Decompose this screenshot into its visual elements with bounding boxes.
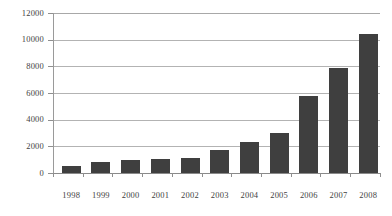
bar-2000 <box>121 160 140 173</box>
bar-2002 <box>181 158 200 173</box>
y-axis-label-8000: 8000 <box>26 62 44 71</box>
bar-2001 <box>151 159 170 173</box>
y-axis-label-2000: 2000 <box>26 142 44 151</box>
bar-2005 <box>270 133 289 173</box>
x-tick-3 <box>142 173 143 177</box>
x-axis-label-2006: 2006 <box>300 190 318 200</box>
x-axis-label-2004: 2004 <box>240 190 258 200</box>
x-tick-8 <box>291 173 292 177</box>
bar-2007 <box>329 68 348 173</box>
x-tick-0 <box>53 173 54 177</box>
bar-1998 <box>62 166 81 173</box>
y-axis-label-0: 0 <box>40 169 44 178</box>
x-axis-label-2007: 2007 <box>330 190 348 200</box>
bar-chart: 12000 10000 8000 6000 4000 2000 0 1998 1… <box>0 0 392 216</box>
x-axis-label-2000: 2000 <box>122 190 140 200</box>
bar-2008 <box>359 34 378 173</box>
x-tick-5 <box>202 173 203 177</box>
bar-2004 <box>240 142 259 173</box>
x-tick-1 <box>83 173 84 177</box>
x-axis-label-2008: 2008 <box>359 190 377 200</box>
x-tick-6 <box>231 173 232 177</box>
bar-2003 <box>210 150 229 173</box>
x-axis-label-2002: 2002 <box>181 190 199 200</box>
x-tick-4 <box>172 173 173 177</box>
y-axis-label-6000: 6000 <box>26 89 44 98</box>
y-axis-label-12000: 12000 <box>22 9 44 18</box>
x-tick-10 <box>350 173 351 177</box>
bars-layer <box>53 13 380 173</box>
gridline-0 <box>53 173 380 174</box>
x-tick-2 <box>112 173 113 177</box>
x-axis-label-2005: 2005 <box>270 190 288 200</box>
x-axis-label-2001: 2001 <box>151 190 169 200</box>
x-axis-label-1999: 1999 <box>92 190 110 200</box>
x-axis-label-1998: 1998 <box>62 190 80 200</box>
bar-1999 <box>91 162 110 173</box>
x-axis-label-2003: 2003 <box>211 190 229 200</box>
y-axis-label-4000: 4000 <box>26 115 44 124</box>
y-axis-label-10000: 10000 <box>22 35 44 44</box>
x-tick-9 <box>320 173 321 177</box>
x-tick-7 <box>261 173 262 177</box>
bar-2006 <box>299 96 318 173</box>
x-tick-11 <box>380 173 381 177</box>
